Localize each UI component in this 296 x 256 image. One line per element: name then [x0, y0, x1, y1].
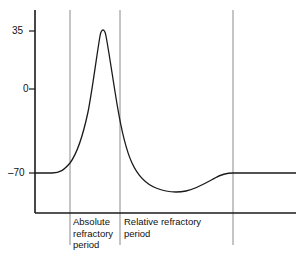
y-axis-label-35: 35 — [12, 26, 23, 36]
y-axis-label-minus-70: –70 — [8, 168, 25, 178]
y-axis-label-0: 0 — [23, 84, 29, 94]
action-potential-figure: 35 0 –70 Absolute refractory period Rela… — [0, 0, 296, 256]
absolute-refractory-period-label: Absolute refractory period — [73, 216, 119, 251]
membrane-potential-curve — [35, 30, 296, 192]
relative-refractory-period-label: Relative refractory period — [124, 216, 228, 239]
